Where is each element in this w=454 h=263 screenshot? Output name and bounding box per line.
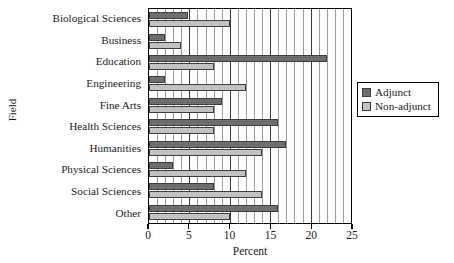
legend-label: Non-adjunct xyxy=(375,101,431,112)
bar-group xyxy=(149,180,351,201)
legend-swatch-adjunct xyxy=(362,88,371,97)
x-axis-tick-label: 10 xyxy=(224,230,236,242)
bar-adjunct xyxy=(149,34,165,41)
bar-nonadjunct xyxy=(149,170,246,177)
legend-label: Adjunct xyxy=(375,87,411,98)
bar-group xyxy=(149,159,351,180)
bar-adjunct xyxy=(149,98,222,105)
y-axis-tick-label: Biological Sciences xyxy=(14,8,145,30)
x-axis: 0510152025 xyxy=(148,224,352,225)
plot-area xyxy=(148,8,352,224)
y-axis-tick-label: Education xyxy=(14,51,145,73)
x-axis-tick-label: 5 xyxy=(186,230,192,242)
y-axis-tick-label: Social Sciences xyxy=(14,181,145,203)
y-axis-tick-label: Engineering xyxy=(14,73,145,95)
legend-item: Adjunct xyxy=(362,87,431,98)
bar-group xyxy=(149,116,351,137)
bar-adjunct xyxy=(149,162,173,169)
bar-nonadjunct xyxy=(149,213,230,220)
bar-chart: Field Biological SciencesBusinessEducati… xyxy=(0,0,454,263)
bar-adjunct xyxy=(149,76,165,83)
bar-group xyxy=(149,30,351,51)
y-axis-tick-label: Fine Arts xyxy=(14,94,145,116)
bar-adjunct xyxy=(149,205,278,212)
bar-adjunct xyxy=(149,183,214,190)
bar-nonadjunct xyxy=(149,63,214,70)
chart-legend: AdjunctNon-adjunct xyxy=(357,82,439,117)
bar-nonadjunct xyxy=(149,42,181,49)
y-axis-tick-label: Physical Sciences xyxy=(14,159,145,181)
bar-group xyxy=(149,52,351,73)
bar-nonadjunct xyxy=(149,84,246,91)
bar-nonadjunct xyxy=(149,191,262,198)
bar-groups xyxy=(149,9,351,223)
bar-nonadjunct xyxy=(149,149,262,156)
bar-group xyxy=(149,73,351,94)
y-axis-tick-label: Other xyxy=(14,202,145,224)
legend-swatch-nonadjunct xyxy=(362,102,371,111)
bar-adjunct xyxy=(149,119,278,126)
legend-item: Non-adjunct xyxy=(362,101,431,112)
x-axis-tick-label: 25 xyxy=(346,230,358,242)
bar-nonadjunct xyxy=(149,20,230,27)
bar-nonadjunct xyxy=(149,106,214,113)
y-axis-tick-label: Humanities xyxy=(14,138,145,160)
bar-adjunct xyxy=(149,12,188,19)
bar-group xyxy=(149,137,351,158)
x-axis-tick-label: 15 xyxy=(265,230,277,242)
bar-group xyxy=(149,95,351,116)
x-axis-tick-label: 20 xyxy=(305,230,317,242)
y-axis-tick-labels: Biological SciencesBusinessEducationEngi… xyxy=(14,8,145,224)
y-axis-tick-label: Health Sciences xyxy=(14,116,145,138)
bar-adjunct xyxy=(149,55,327,62)
bar-group xyxy=(149,202,351,223)
x-axis-title: Percent xyxy=(148,246,352,258)
bar-nonadjunct xyxy=(149,127,214,134)
x-axis-tick-label: 0 xyxy=(145,230,151,242)
bar-adjunct xyxy=(149,141,286,148)
bar-group xyxy=(149,9,351,30)
y-axis-tick-label: Business xyxy=(14,30,145,52)
